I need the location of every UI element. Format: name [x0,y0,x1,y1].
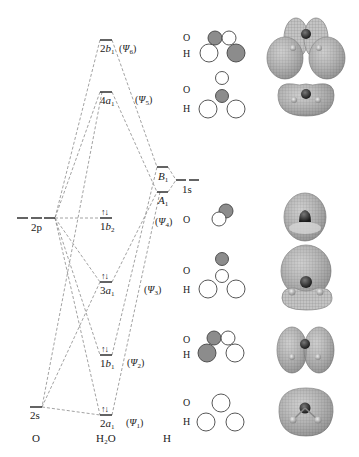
ao-label-2p: 2p [31,221,42,233]
group-orbital-B1: B1 [158,170,168,186]
sketch-psi5-o-label: O [183,84,190,95]
isosurface-psi4 [284,193,326,241]
lcao-sketches [197,31,245,431]
sketch-psi3 [199,253,245,299]
isosurface-psi1 [279,388,333,436]
sketch-psi5-h-label: H [183,103,190,114]
ao-label-1s: 1s [182,183,192,195]
sketch-psi1-h-label: H [183,416,190,427]
mo-label-3a1: 3a1 [100,284,115,300]
isosurface-psi2 [277,327,334,373]
mo-label-2a1: 2a1 [100,417,115,433]
electrons-1b2: ↑↓ [101,208,108,217]
sketch-psi3-h-label: H [183,284,190,295]
sketch-psi2 [198,331,244,362]
psi-label-6: (Ψ6) [119,43,136,58]
electrons-3a1: ↑↓ [101,272,108,281]
mo-label-2b1: 2b1 [100,42,115,58]
sketch-psi6-o-label: O [183,32,190,43]
mo-label-1b1: 1b1 [100,357,115,373]
ao-label-2s: 2s [30,409,40,421]
sketch-psi2-h-label: H [183,349,190,360]
group-orbital-A1: A1 [158,194,168,210]
sketch-psi3-o-label: O [183,265,190,276]
isosurface-psi3 [281,245,332,310]
psi-label-5: (Ψ5) [135,94,152,109]
mo-label-4a1: 4a1 [100,94,115,110]
isosurfaces [267,18,345,436]
sketch-psi2-o-label: O [183,334,190,345]
sketch-psi6 [200,31,245,62]
sketch-psi4-o-label: O [183,214,190,225]
isosurface-psi5 [278,84,334,116]
psi-label-2: (Ψ2) [127,357,144,372]
psi-label-3: (Ψ3) [144,284,161,299]
psi-label-1: (Ψ1) [126,417,143,432]
sketch-psi1-o-label: O [183,397,190,408]
isosurface-psi6 [267,18,345,79]
column-label-oxygen: O [32,432,40,444]
electrons-2a1: ↑↓ [101,405,108,414]
sketch-psi4 [212,204,233,226]
electrons-1b1: ↑↓ [101,345,108,354]
mo-label-1b2: 1b2 [100,220,115,236]
sketch-psi1 [197,394,244,431]
column-label-hydrogen: H [163,432,171,444]
mo-diagram-canvas [0,0,359,457]
column-label-water: H₂O [96,432,116,444]
psi-label-4: (Ψ4) [155,216,172,231]
sketch-psi5 [199,72,245,119]
sketch-psi6-h-label: H [183,48,190,59]
